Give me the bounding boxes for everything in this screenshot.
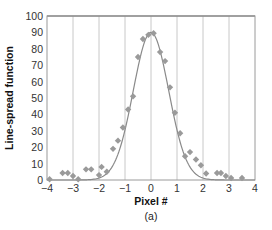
- data-points: [46, 30, 245, 182]
- figure-caption: (a): [145, 210, 158, 222]
- y-tick-labels: 0102030405060708090100: [25, 10, 43, 186]
- y-tick-label: 60: [31, 76, 43, 88]
- data-point: [187, 149, 193, 155]
- y-axis-label: Line-spread function: [3, 46, 15, 150]
- x-axis-label: Pixel #: [134, 195, 167, 207]
- y-tick-label: 40: [31, 108, 43, 120]
- y-tick-label: 30: [31, 125, 43, 137]
- x-tick-label: 3: [226, 182, 232, 194]
- x-tick-label: −3: [67, 182, 79, 194]
- data-point: [203, 170, 209, 176]
- data-point: [223, 173, 229, 179]
- data-point: [104, 169, 110, 175]
- y-tick-label: 20: [31, 141, 43, 153]
- data-point: [70, 173, 76, 179]
- x-tick-label: −2: [93, 182, 105, 194]
- data-point: [115, 137, 121, 143]
- data-point: [193, 156, 199, 162]
- data-point: [110, 146, 116, 152]
- x-tick-label: 0: [148, 182, 154, 194]
- data-point: [65, 170, 71, 176]
- x-tick-label: 4: [252, 182, 258, 194]
- data-point: [88, 166, 94, 172]
- line-spread-chart: −4−3−2−101234 0102030405060708090100 Pix…: [0, 0, 272, 230]
- x-tick-labels: −4−3−2−101234: [41, 182, 258, 194]
- x-tick-label: 2: [200, 182, 206, 194]
- data-point: [130, 93, 136, 99]
- y-tick-label: 0: [37, 174, 43, 186]
- x-tick-label: 1: [174, 182, 180, 194]
- y-tick-label: 100: [25, 10, 43, 22]
- grid-lines: [47, 16, 255, 180]
- data-point: [182, 153, 188, 159]
- data-point: [218, 170, 224, 176]
- y-tick-label: 70: [31, 59, 43, 71]
- y-tick-label: 80: [31, 43, 43, 55]
- x-tick-label: −1: [119, 182, 131, 194]
- data-point: [157, 49, 163, 55]
- y-tick-label: 10: [31, 158, 43, 170]
- y-tick-label: 50: [31, 92, 43, 104]
- y-tick-label: 90: [31, 26, 43, 38]
